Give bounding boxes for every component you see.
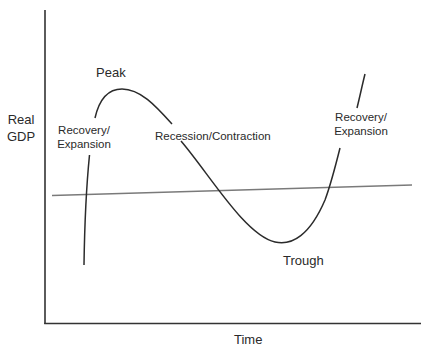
recovery-right-line1: Recovery/ xyxy=(331,110,391,124)
cycle-curve-left-rise xyxy=(84,155,90,265)
y-axis-label-line1: Real xyxy=(4,111,38,128)
recovery-right-label: Recovery/ Expansion xyxy=(331,110,391,138)
recovery-left-label: Recovery/ Expansion xyxy=(54,123,114,151)
recovery-left-line1: Recovery/ xyxy=(54,123,114,137)
cycle-curve-trough xyxy=(181,141,340,243)
y-axis-label-line2: GDP xyxy=(4,128,38,145)
trend-line xyxy=(52,185,412,196)
trough-label: Trough xyxy=(283,252,324,269)
x-axis-label: Time xyxy=(234,331,262,348)
peak-label: Peak xyxy=(96,64,126,81)
cycle-curve-peak xyxy=(95,89,172,124)
cycle-curve-right-rise xyxy=(357,74,365,108)
recovery-right-line2: Expansion xyxy=(331,124,391,138)
recovery-left-line2: Expansion xyxy=(54,137,114,151)
recession-label: Recession/Contraction xyxy=(155,129,271,143)
y-axis-label: Real GDP xyxy=(4,111,38,145)
